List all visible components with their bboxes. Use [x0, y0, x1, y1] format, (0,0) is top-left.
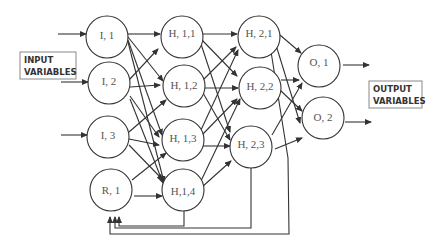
node-h21: H, 2,1 — [238, 16, 280, 58]
svg-text:H, 2,3: H, 2,3 — [237, 138, 265, 150]
node-h23: H, 2,3 — [230, 126, 272, 168]
svg-text:VARIABLES: VARIABLES — [373, 96, 426, 106]
svg-text:R, 1: R, 1 — [102, 184, 120, 196]
svg-text:H,1,4: H,1,4 — [171, 185, 196, 197]
node-i3: I, 3 — [87, 116, 129, 158]
svg-text:H, 1,2: H, 1,2 — [170, 79, 197, 91]
node-o2: O, 2 — [302, 97, 344, 139]
svg-text:H, 2,1: H, 2,1 — [245, 27, 272, 39]
svg-text:O, 2: O, 2 — [314, 111, 333, 123]
svg-text:I, 1: I, 1 — [100, 29, 115, 41]
node-h12: H, 1,2 — [163, 65, 205, 107]
svg-text:VARIABLES: VARIABLES — [24, 67, 77, 77]
output-variables-box: OUTPUT VARIABLES — [369, 81, 426, 108]
node-r1: R, 1 — [90, 169, 132, 211]
svg-text:I, 3: I, 3 — [101, 129, 116, 141]
svg-text:INPUT: INPUT — [24, 55, 53, 65]
node-h14: H,1,4 — [162, 169, 204, 211]
node-i2: I, 2 — [88, 62, 130, 104]
svg-text:H, 1,1: H, 1,1 — [168, 27, 195, 39]
svg-text:H, 1,3: H, 1,3 — [169, 132, 197, 144]
svg-text:H, 2,2: H, 2,2 — [246, 80, 273, 92]
svg-text:I, 2: I, 2 — [102, 75, 117, 87]
node-i1: I, 1 — [86, 16, 128, 58]
input-variables-box: INPUT VARIABLES — [20, 52, 77, 79]
node-o1: O, 1 — [298, 45, 340, 87]
neural-network-diagram: I, 1 I, 2 I, 3 R, 1 H, 1,1 H, 1,2 H, 1,3… — [0, 0, 440, 247]
svg-text:O, 1: O, 1 — [310, 56, 329, 68]
node-h13: H, 1,3 — [162, 119, 204, 161]
node-h22: H, 2,2 — [239, 67, 281, 109]
svg-text:OUTPUT: OUTPUT — [373, 84, 412, 94]
node-h11: H, 1,1 — [161, 16, 203, 58]
